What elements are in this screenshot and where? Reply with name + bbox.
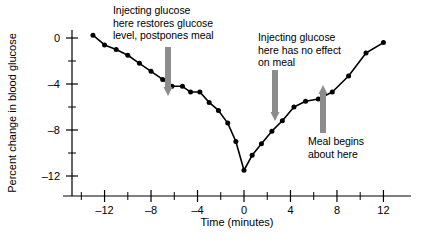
svg-text:–8: –8 bbox=[145, 204, 157, 216]
svg-text:0: 0 bbox=[241, 204, 247, 216]
svg-text:–4: –4 bbox=[48, 78, 60, 90]
arrow-injection-no-effect bbox=[271, 70, 280, 121]
y-axis-title: Percent change in blood glucose bbox=[6, 33, 18, 193]
x-axis-tick-labels: –12–8–404812 bbox=[95, 204, 389, 216]
svg-text:–12: –12 bbox=[95, 204, 113, 216]
svg-text:8: 8 bbox=[334, 204, 340, 216]
annotation-injection-restores: Injecting glucose here restores glucose … bbox=[113, 4, 248, 42]
annotation-injection-no-effect: Injecting glucose here has no effect on … bbox=[258, 31, 378, 69]
x-axis-title: Time (minutes) bbox=[201, 216, 274, 228]
arrow-injection-restores bbox=[164, 47, 173, 96]
annotation-meal-begins: Meal begins about here bbox=[308, 135, 418, 160]
glucose-chart-figure: 0–4–8–12 –12–8–404812 Time (minutes) Per… bbox=[0, 0, 425, 242]
svg-text:12: 12 bbox=[377, 204, 389, 216]
svg-text:–12: –12 bbox=[42, 170, 60, 182]
svg-text:–4: –4 bbox=[191, 204, 203, 216]
svg-text:4: 4 bbox=[287, 204, 293, 216]
arrow-meal-begins bbox=[319, 85, 328, 133]
y-axis-tick-labels: 0–4–8–12 bbox=[42, 32, 60, 182]
svg-text:–8: –8 bbox=[48, 124, 60, 136]
svg-text:0: 0 bbox=[54, 32, 60, 44]
